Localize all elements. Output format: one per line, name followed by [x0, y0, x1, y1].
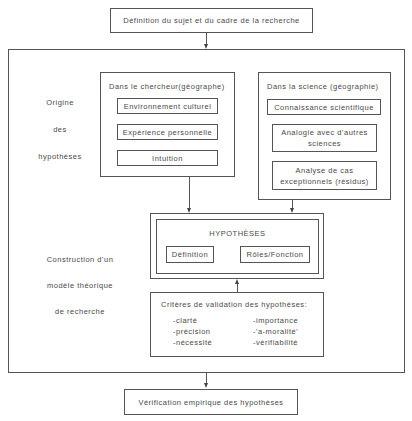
item-label: Expérience personnelle [123, 127, 212, 138]
item-label: Intuition [152, 153, 183, 164]
criteria-item-amoralite: -'a-moralité' [253, 327, 298, 336]
researcher-item-experience: Expérience personnelle [117, 124, 218, 140]
item-label: Définition [172, 249, 208, 260]
criteria-item-verifiabilite: -vérifiabilité [253, 338, 298, 347]
bottom-box-verification: Vérification empirique des hypothèses [124, 389, 298, 415]
researcher-item-environnement: Environnement culturel [117, 98, 218, 114]
side-label-construction: Construction d'un [20, 255, 140, 264]
hypotheses-item-roles: Rôles/Fonction [240, 246, 310, 263]
connector-science [292, 200, 293, 208]
criteria-item-clarte: -clarté [173, 316, 197, 325]
side-label-modele: modèle théorique [20, 281, 140, 290]
connector-criteria [237, 284, 238, 292]
researcher-item-intuition: Intuition [117, 150, 218, 166]
hypotheses-title: HYPOTHÈSES [157, 229, 318, 238]
science-item-connaissance: Connaissance scientifique [267, 99, 381, 115]
top-box-label: Définition du sujet et du cadre de la re… [123, 15, 300, 26]
connector-researcher [189, 177, 190, 208]
science-item-analyse: Analyse de cas exceptionnels (résidus) [272, 161, 377, 190]
item-label: Rôles/Fonction [246, 249, 303, 260]
researcher-group-title: Dans le chercheur(géographe) [109, 82, 225, 91]
top-box-definition: Définition du sujet et du cadre de la re… [110, 8, 313, 33]
bottom-box-label: Vérification empirique des hypothèses [138, 397, 283, 408]
arrow-down-icon [204, 383, 208, 388]
criteria-box: Critères de validation des hypothèses: -… [150, 292, 324, 357]
science-item-analogie: Analogie avec d'autres sciences [272, 124, 377, 152]
connector-top [206, 33, 207, 44]
item-label: Environnement culturel [124, 101, 212, 112]
item-label: Analogie avec d'autres sciences [281, 127, 368, 149]
science-group-title: Dans la science (géographie) [267, 82, 379, 91]
hypotheses-item-definition: Définition [166, 246, 214, 263]
criteria-item-necessite: -nécessité [173, 338, 212, 347]
criteria-item-importance: -importance [253, 316, 298, 325]
connector-bottom [206, 373, 207, 383]
criteria-title: Critères de validation des hypothèses: [161, 300, 307, 309]
side-label-recherche: de recherche [20, 307, 140, 316]
item-label: Analyse de cas exceptionnels (résidus) [279, 165, 370, 187]
criteria-item-precision: -précision [173, 327, 211, 336]
item-label: Connaissance scientifique [274, 102, 374, 113]
